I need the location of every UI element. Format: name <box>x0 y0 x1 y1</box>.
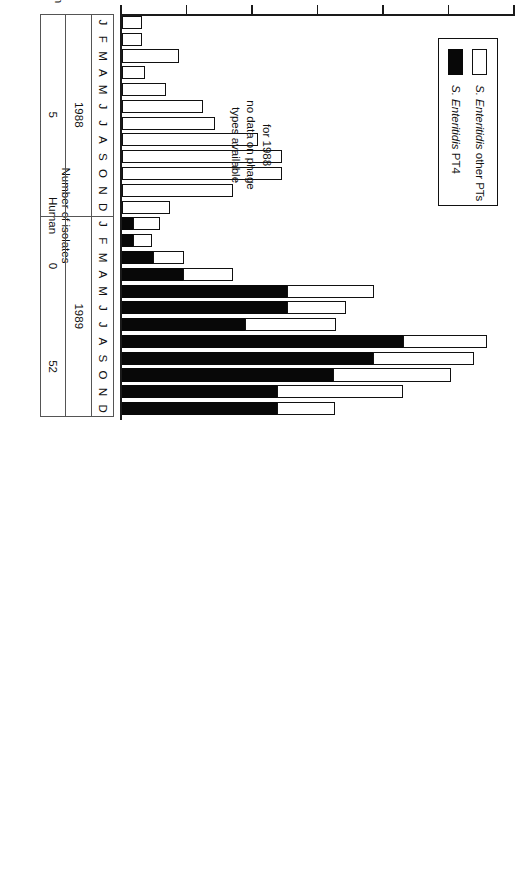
bar-stack <box>122 268 233 281</box>
tick-200 <box>252 5 254 14</box>
bar-segment-other-pts <box>287 285 374 298</box>
bar-12 <box>122 217 522 230</box>
month-label-4: M <box>92 81 114 98</box>
legend-label-pt4: S. Enteritidis PT4 <box>450 85 462 174</box>
bar-stack <box>122 117 215 130</box>
bar-segment-pt4 <box>122 352 373 365</box>
bar-21 <box>122 368 522 381</box>
no-data-annotation: for 1988 no data on phage types availabl… <box>227 80 274 210</box>
month-label-1: F <box>92 31 114 48</box>
bar-stack <box>122 66 145 79</box>
bar-segment-other-pts <box>122 33 142 46</box>
month-label-19: A <box>92 333 114 350</box>
bar-segment-other-pts <box>122 49 179 62</box>
bar-14 <box>122 251 522 264</box>
bar-segment-pt4 <box>122 318 245 331</box>
year-label-1989: 1989 <box>66 216 92 418</box>
nonhuman-row-label: Nonhuman PT 4 <box>39 0 65 8</box>
bar-stack <box>122 49 179 62</box>
bar-segment-other-pts <box>333 368 451 381</box>
bar-stack <box>122 184 233 197</box>
tick-100 <box>186 5 188 14</box>
bar-segment-other-pts <box>287 301 346 314</box>
nonhuman-label-line1: Nonhuman <box>52 0 65 8</box>
month-label-8: S <box>92 148 114 165</box>
month-label-6: J <box>92 115 114 132</box>
month-label-20: S <box>92 350 114 367</box>
bar-0 <box>122 16 522 29</box>
chart-figure: 6005004003002001000 Number of isolates H… <box>0 0 522 873</box>
nonhuman-value-1988: 5 <box>40 14 66 216</box>
bar-22 <box>122 385 522 398</box>
bar-stack <box>122 16 142 29</box>
bar-17 <box>122 301 522 314</box>
bar-segment-other-pts <box>133 234 152 247</box>
tick-600 <box>514 5 516 14</box>
month-label-15: A <box>92 266 114 283</box>
bar-stack <box>122 201 170 214</box>
bar-segment-other-pts <box>122 83 166 96</box>
bar-stack <box>122 368 451 381</box>
month-label-12: J <box>92 216 114 233</box>
legend-label-other-pts: S. Enteritidis other PTs <box>474 85 486 201</box>
tick-500 <box>448 5 450 14</box>
bar-15 <box>122 268 522 281</box>
bar-segment-pt4 <box>122 402 277 415</box>
month-label-0: J <box>92 14 114 31</box>
bar-stack <box>122 385 403 398</box>
bar-segment-pt4 <box>122 217 133 230</box>
month-label-2: M <box>92 48 114 65</box>
bar-segment-pt4 <box>122 285 287 298</box>
plot-area: 6005004003002001000 Number of isolates H… <box>0 0 522 873</box>
bar-segment-other-pts <box>122 100 203 113</box>
tick-0 <box>121 5 123 14</box>
bar-23 <box>122 402 522 415</box>
note-line-1: for 1988 <box>258 80 274 210</box>
bar-stack <box>122 234 152 247</box>
note-line-3: types available <box>227 80 243 210</box>
bar-stack <box>122 285 374 298</box>
month-label-22: N <box>92 383 114 400</box>
legend: S. Enteritidis other PTsS. Enteritidis P… <box>438 38 498 206</box>
bar-segment-pt4 <box>122 385 277 398</box>
bar-segment-pt4 <box>122 251 153 264</box>
bar-stack <box>122 352 474 365</box>
month-label-5: J <box>92 98 114 115</box>
nonhuman-label-line2: PT 4 <box>39 0 52 8</box>
bar-stack <box>122 251 184 264</box>
bar-segment-pt4 <box>122 368 333 381</box>
bar-segment-other-pts <box>277 385 403 398</box>
bar-stack <box>122 402 335 415</box>
bar-segment-other-pts <box>122 16 142 29</box>
bar-20 <box>122 352 522 365</box>
nonhuman-value-1989-h2: 52 <box>40 316 66 417</box>
bar-segment-pt4 <box>122 335 403 348</box>
value-axis-line <box>120 14 122 420</box>
note-line-2: no data on phage <box>243 80 259 210</box>
legend-swatch-other-pts <box>472 49 487 75</box>
bar-segment-other-pts <box>133 217 160 230</box>
bar-segment-other-pts <box>122 117 215 130</box>
bar-segment-other-pts <box>373 352 475 365</box>
month-label-14: M <box>92 249 114 266</box>
bar-18 <box>122 318 522 331</box>
bar-segment-other-pts <box>183 268 233 281</box>
month-label-21: O <box>92 367 114 384</box>
year-label-1988: 1988 <box>66 14 92 216</box>
nonhuman-value-1989-h1: 0 <box>40 216 66 317</box>
legend-swatch-pt4 <box>448 49 463 75</box>
month-label-11: D <box>92 199 114 216</box>
bar-19 <box>122 335 522 348</box>
bar-13 <box>122 234 522 247</box>
month-label-7: A <box>92 132 114 149</box>
bar-segment-other-pts <box>403 335 487 348</box>
bar-stack <box>122 335 487 348</box>
month-label-17: J <box>92 299 114 316</box>
bar-segment-pt4 <box>122 234 133 247</box>
month-label-3: A <box>92 64 114 81</box>
month-label-23: D <box>92 400 114 417</box>
bar-segment-other-pts <box>122 66 145 79</box>
value-axis-spine <box>122 14 515 16</box>
bar-16 <box>122 285 522 298</box>
bar-stack <box>122 83 166 96</box>
